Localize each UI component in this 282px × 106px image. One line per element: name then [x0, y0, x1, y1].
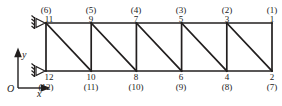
bottom-node-label-6: 6: [168, 72, 194, 82]
bottom-dof-label-4: (9): [168, 82, 194, 92]
top-node-label-5: 5: [168, 14, 194, 24]
bottom-node-label-12: 12: [36, 72, 62, 82]
member-diagonal-1: [46, 23, 91, 71]
bottom-node-label-10: 10: [78, 72, 104, 82]
member-diagonal-2: [91, 23, 136, 71]
member-diagonal-5: [227, 23, 272, 71]
top-node-label-11: 11: [36, 14, 62, 24]
top-node-label-3: 3: [214, 14, 240, 24]
top-node-label-7: 7: [123, 14, 149, 24]
member-diagonal-4: [182, 23, 227, 71]
truss-members: [46, 23, 272, 71]
bottom-dof-label-5: (8): [214, 82, 240, 92]
member-diagonal-3: [136, 23, 181, 71]
origin-label: O: [7, 84, 14, 94]
bottom-node-label-4: 4: [214, 72, 240, 82]
bottom-node-label-8: 8: [123, 72, 149, 82]
y-axis-arrowhead: [15, 50, 21, 57]
bottom-dof-label-3: (10): [123, 82, 149, 92]
y-axis-label: y: [22, 50, 26, 60]
top-node-label-1: 1: [259, 14, 282, 24]
bottom-node-label-2: 2: [259, 72, 282, 82]
bottom-dof-label-6: (7): [259, 82, 282, 92]
x-axis-label: x: [37, 89, 41, 99]
bottom-dof-label-2: (11): [78, 82, 104, 92]
top-node-label-9: 9: [78, 14, 104, 24]
truss-figure: (6) (5) (4) (3) (2) (1) 11 9 7 5 3 1 12 …: [0, 0, 282, 106]
